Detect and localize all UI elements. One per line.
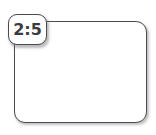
ratio-label-text: 2:5 [13, 22, 42, 38]
diagram-canvas: 2:5 [0, 0, 156, 135]
ratio-label-badge[interactable]: 2:5 [8, 14, 47, 45]
